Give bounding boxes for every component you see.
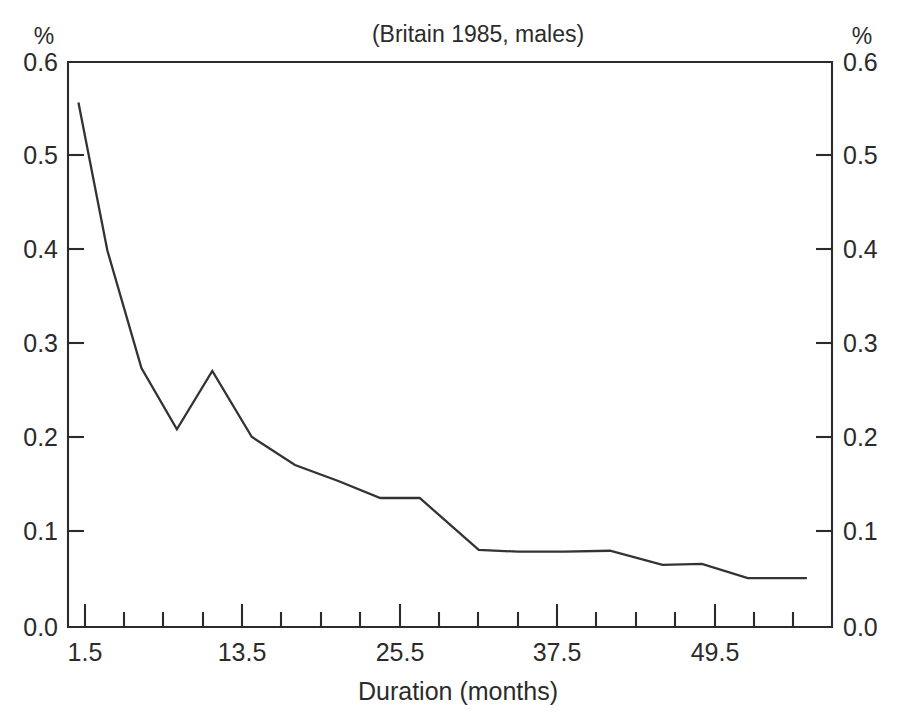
plot-frame (68, 62, 832, 627)
y-tick-label-right: 0.5 (843, 141, 878, 169)
y-tick-label: 0.4 (23, 235, 58, 263)
y-tick-label-right: 0.1 (843, 517, 878, 545)
y-tick-label-right: 0.3 (843, 329, 878, 357)
x-axis-tick-labels: 1.5 13.5 25.5 37.5 49.5 (68, 638, 740, 666)
y-tick-label: 0.6 (23, 48, 58, 76)
data-series-line (78, 102, 806, 578)
x-tick-label: 37.5 (533, 638, 582, 666)
y-tick-label-right: 0.4 (843, 235, 878, 263)
x-tick-label: 1.5 (68, 638, 103, 666)
chart-figure: (Britain 1985, males) % % 0.6 0.5 (0, 0, 906, 722)
y-tick-label: 0.1 (23, 517, 58, 545)
y-tick-label-right: 0.0 (843, 613, 878, 641)
left-axis-tick-labels: 0.6 0.5 0.4 0.3 0.2 0.1 0.0 (23, 48, 58, 641)
y-tick-label: 0.3 (23, 329, 58, 357)
chart-title: (Britain 1985, males) (372, 21, 584, 47)
left-axis-ticks (68, 155, 84, 531)
right-axis-tick-labels: 0.6 0.5 0.4 0.3 0.2 0.1 0.0 (843, 48, 878, 641)
chart-svg: (Britain 1985, males) % % 0.6 0.5 (0, 0, 906, 722)
x-tick-label: 25.5 (376, 638, 425, 666)
right-axis-ticks (816, 155, 832, 531)
left-axis-unit-label: % (34, 23, 54, 49)
y-tick-label: 0.2 (23, 423, 58, 451)
right-axis-unit-label: % (852, 23, 872, 49)
y-tick-label: 0.5 (23, 141, 58, 169)
x-axis-ticks (85, 604, 793, 627)
y-tick-label-right: 0.2 (843, 423, 878, 451)
y-tick-label: 0.0 (23, 613, 58, 641)
x-tick-label: 13.5 (218, 638, 267, 666)
x-tick-label: 49.5 (691, 638, 740, 666)
x-axis-title: Duration (months) (358, 677, 558, 705)
y-tick-label-right: 0.6 (843, 48, 878, 76)
